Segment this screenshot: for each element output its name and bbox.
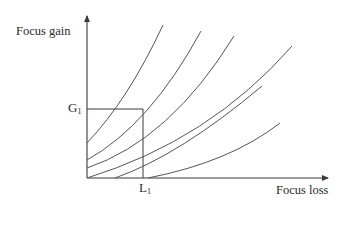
l1-marker: L1 <box>139 180 151 196</box>
g1-marker: G1 <box>68 100 81 116</box>
l1-marker-base: L <box>139 180 147 195</box>
indifference-curve-5 <box>115 86 262 178</box>
indifference-curve-1 <box>87 25 163 143</box>
g1-marker-sub: 1 <box>77 107 81 116</box>
x-axis-label: Focus loss <box>276 183 328 198</box>
indifference-curve-4 <box>87 46 292 178</box>
g1-marker-base: G <box>68 100 77 115</box>
indifference-curve-6 <box>148 123 280 178</box>
y-axis-label: Focus gain <box>16 24 71 39</box>
indifference-curve-2 <box>87 31 201 160</box>
l1-marker-sub: 1 <box>147 187 151 196</box>
